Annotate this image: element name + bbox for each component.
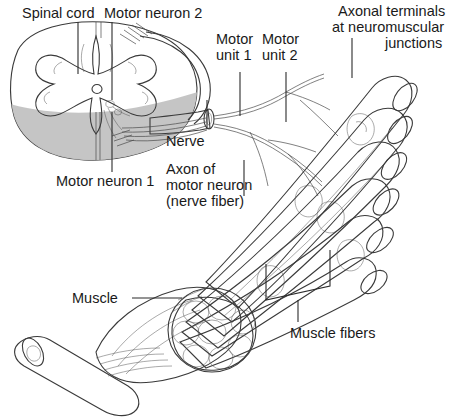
label-motor-unit-2-line1: Motor: [262, 31, 299, 47]
label-motor-neuron-1: Motor neuron 1: [56, 173, 154, 189]
label-muscle-fibers: Muscle fibers: [290, 325, 375, 341]
label-motor-neuron-2: Motor neuron 2: [104, 5, 202, 21]
label-axon-line1: Axon of: [166, 161, 216, 177]
label-motor-unit-2-line2: unit 2: [262, 47, 297, 63]
label-axon-line2: motor neuron: [166, 177, 252, 193]
label-motor-unit-1-line1: Motor: [216, 31, 253, 47]
motor-unit-diagram: Spinal cord Motor neuron 2 Motor neuron …: [0, 0, 465, 417]
label-muscle: Muscle: [72, 290, 118, 306]
label-nerve: Nerve: [166, 133, 205, 149]
label-axon-line3: (nerve fiber): [166, 193, 244, 209]
label-motor-unit-1-line2: unit 1: [216, 47, 251, 63]
label-spinal-cord: Spinal cord: [22, 5, 95, 21]
label-axonal-terminals-line2: at neuromuscular: [332, 19, 444, 35]
label-axonal-terminals-line3: junctions: [384, 35, 442, 51]
label-axonal-terminals-line1: Axonal terminals: [338, 3, 445, 19]
